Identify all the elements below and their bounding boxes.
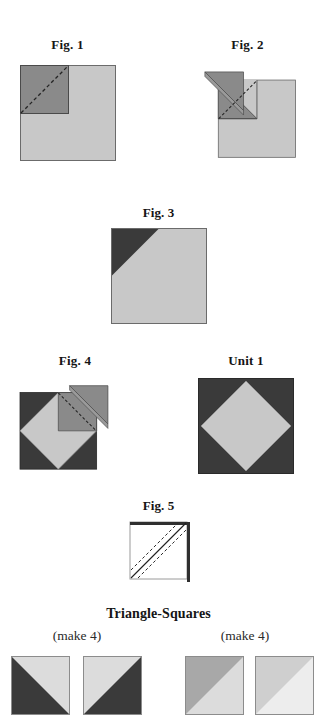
fig-4-diagram: [18, 378, 118, 474]
fig-3-diagram: [111, 228, 207, 324]
triangle-square-medium-b: [255, 656, 314, 715]
make-label-left: (make 4): [22, 628, 132, 644]
triangle-square-medium-a: [185, 656, 244, 715]
make-label-right: (make 4): [190, 628, 300, 644]
fig-2-diagram: [200, 65, 296, 161]
fig-1-label: Fig. 1: [20, 37, 115, 53]
triangle-square-dark-b: [83, 656, 142, 715]
fig-2-label: Fig. 2: [200, 37, 295, 53]
fig-3-label: Fig. 3: [111, 205, 206, 221]
triangle-squares-title: Triangle-Squares: [0, 606, 317, 622]
fig-4-label: Fig. 4: [20, 353, 130, 369]
fig-1-diagram: [20, 65, 116, 161]
fig-5-diagram: [129, 521, 191, 583]
unit-1-diagram: [198, 378, 294, 474]
triangle-square-dark-a: [11, 656, 70, 715]
fig-5-label: Fig. 5: [111, 498, 206, 514]
unit-1-label: Unit 1: [196, 353, 296, 369]
